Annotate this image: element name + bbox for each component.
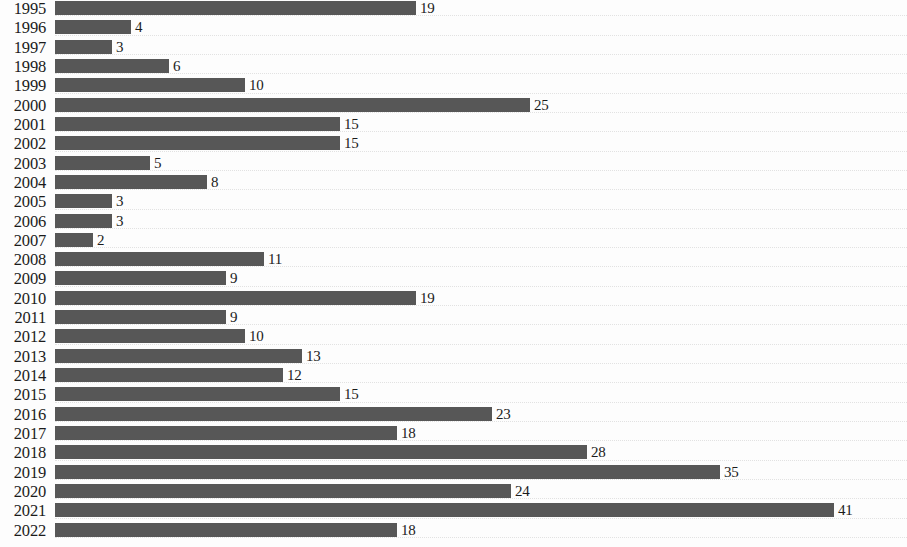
gridline bbox=[55, 344, 907, 345]
gridline bbox=[55, 498, 907, 499]
year-axis-label: 1999 bbox=[0, 78, 46, 95]
bar-value-label: 19 bbox=[420, 1, 435, 16]
bar bbox=[55, 329, 245, 343]
bar-value-label: 19 bbox=[420, 291, 435, 306]
bar-value-label: 6 bbox=[173, 59, 180, 74]
bar bbox=[55, 310, 226, 324]
year-axis-label: 2017 bbox=[0, 426, 46, 443]
bar bbox=[55, 98, 530, 112]
bar bbox=[55, 194, 112, 208]
bar-value-label: 28 bbox=[591, 445, 606, 460]
year-axis-label: 2000 bbox=[0, 98, 46, 115]
year-axis-label: 2019 bbox=[0, 465, 46, 482]
gridline bbox=[55, 228, 907, 229]
bar-value-label: 3 bbox=[116, 40, 123, 55]
bar bbox=[55, 484, 511, 498]
bar-value-label: 35 bbox=[724, 465, 739, 480]
gridline bbox=[55, 35, 907, 36]
gridline bbox=[55, 93, 907, 94]
bar bbox=[55, 252, 264, 266]
year-axis-label: 2016 bbox=[0, 407, 46, 424]
bar bbox=[55, 20, 131, 34]
bar-value-label: 12 bbox=[287, 368, 302, 383]
year-axis-label: 2014 bbox=[0, 368, 46, 385]
bar bbox=[55, 407, 492, 421]
gridline bbox=[55, 402, 907, 403]
gridline bbox=[55, 209, 907, 210]
gridline bbox=[55, 363, 907, 364]
year-axis-label: 2002 bbox=[0, 136, 46, 153]
gridline bbox=[55, 151, 907, 152]
bar-value-label: 18 bbox=[401, 523, 416, 538]
bar-value-label: 4 bbox=[135, 20, 142, 35]
bar bbox=[55, 214, 112, 228]
gridline bbox=[55, 189, 907, 190]
bar-value-label: 8 bbox=[211, 175, 218, 190]
bar-value-label: 3 bbox=[116, 194, 123, 209]
year-axis-label: 2007 bbox=[0, 233, 46, 250]
bar-value-label: 5 bbox=[154, 156, 161, 171]
bar bbox=[55, 523, 397, 537]
gridline bbox=[55, 170, 907, 171]
bar bbox=[55, 368, 283, 382]
bar bbox=[55, 503, 834, 517]
bar-value-label: 13 bbox=[306, 349, 321, 364]
bar-value-label: 9 bbox=[230, 310, 237, 325]
bar-value-label: 2 bbox=[97, 233, 104, 248]
year-axis-label: 2010 bbox=[0, 291, 46, 308]
year-axis-label: 1995 bbox=[0, 1, 46, 18]
bar-value-label: 10 bbox=[249, 329, 264, 344]
year-axis-label: 1996 bbox=[0, 20, 46, 37]
bar bbox=[55, 175, 207, 189]
bar-value-label: 15 bbox=[344, 136, 359, 151]
year-axis-label: 2015 bbox=[0, 387, 46, 404]
year-axis-label: 2022 bbox=[0, 523, 46, 540]
gridline bbox=[55, 266, 907, 267]
bar-value-label: 10 bbox=[249, 78, 264, 93]
bar-value-label: 24 bbox=[515, 484, 530, 499]
bar bbox=[55, 78, 245, 92]
bar-value-label: 18 bbox=[401, 426, 416, 441]
bar bbox=[55, 59, 169, 73]
gridline bbox=[55, 54, 907, 55]
year-axis-label: 1998 bbox=[0, 59, 46, 76]
bar-value-label: 15 bbox=[344, 117, 359, 132]
year-axis-label: 2018 bbox=[0, 445, 46, 462]
year-axis-label: 2005 bbox=[0, 194, 46, 211]
bar bbox=[55, 445, 587, 459]
gridline bbox=[55, 479, 907, 480]
year-axis-label: 2003 bbox=[0, 156, 46, 173]
year-axis-label: 2011 bbox=[0, 310, 46, 327]
bar bbox=[55, 291, 416, 305]
bar-value-label: 15 bbox=[344, 387, 359, 402]
year-axis-label: 2009 bbox=[0, 271, 46, 288]
gridline bbox=[55, 382, 907, 383]
bar bbox=[55, 349, 302, 363]
plot-area: 1943610251515583321191991013121523182835… bbox=[55, 0, 907, 547]
bar-value-label: 3 bbox=[116, 214, 123, 229]
year-axis: 1995199619971998199920002001200220032004… bbox=[0, 0, 55, 547]
gridline bbox=[55, 15, 907, 16]
gridline bbox=[55, 537, 907, 538]
gridline bbox=[55, 73, 907, 74]
year-axis-label: 2013 bbox=[0, 349, 46, 366]
bar bbox=[55, 117, 340, 131]
bar-value-label: 9 bbox=[230, 271, 237, 286]
bar bbox=[55, 233, 93, 247]
bar-chart: 1943610251515583321191991013121523182835… bbox=[0, 0, 907, 547]
gridline bbox=[55, 286, 907, 287]
bar bbox=[55, 465, 720, 479]
bar-value-label: 23 bbox=[496, 407, 511, 422]
year-axis-label: 2012 bbox=[0, 329, 46, 346]
gridline bbox=[55, 324, 907, 325]
bar-value-label: 11 bbox=[268, 252, 282, 267]
year-axis-label: 2020 bbox=[0, 484, 46, 501]
bar bbox=[55, 156, 150, 170]
year-axis-label: 1997 bbox=[0, 40, 46, 57]
bar bbox=[55, 426, 397, 440]
gridline bbox=[55, 247, 907, 248]
bar bbox=[55, 40, 112, 54]
year-axis-label: 2006 bbox=[0, 214, 46, 231]
bar bbox=[55, 387, 340, 401]
year-axis-label: 2008 bbox=[0, 252, 46, 269]
